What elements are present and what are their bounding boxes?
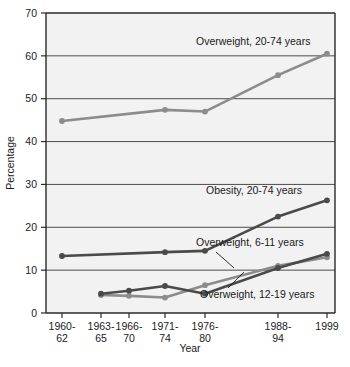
data-point — [162, 249, 168, 255]
data-point — [202, 109, 208, 115]
y-tick-label-20: 20 — [25, 221, 37, 233]
x-tick-label-1966-70: 1966- — [116, 320, 143, 332]
y-tick-marks-group — [41, 13, 46, 313]
data-point — [324, 251, 330, 257]
data-point — [162, 295, 168, 301]
x-tick-label-1971-74: 1971- — [152, 320, 179, 332]
data-point — [126, 293, 132, 299]
data-point — [162, 283, 168, 289]
x-tick-labels-group: 1960-621963-651966-701971-741976-801988-… — [49, 320, 339, 344]
y-tick-label-50: 50 — [25, 92, 37, 104]
y-tick-label-40: 40 — [25, 135, 37, 147]
annotation-obesity-20-74-years: Obesity, 20-74 years — [206, 184, 302, 196]
plot-background — [46, 13, 335, 313]
x-tick-label-1988-94-line2: 94 — [272, 332, 284, 344]
data-point — [59, 253, 65, 259]
y-tick-label-60: 60 — [25, 50, 37, 62]
data-point — [162, 107, 168, 113]
data-point — [275, 265, 281, 271]
y-tick-label-70: 70 — [25, 7, 37, 19]
x-tick-marks-group — [62, 313, 327, 318]
y-tick-labels-group: 010203040506070 — [25, 7, 37, 319]
data-point — [324, 197, 330, 203]
x-tick-label-1966-70-line2: 70 — [123, 332, 135, 344]
y-axis-title: Percentage — [4, 136, 16, 190]
x-axis-title: Year — [179, 342, 201, 354]
chart-container: 010203040506070 1960-621963-651966-70197… — [0, 0, 350, 367]
x-tick-label-1971-74-line2: 74 — [159, 332, 171, 344]
x-tick-label-1999: 1999 — [315, 320, 339, 332]
line-chart: 010203040506070 1960-621963-651966-70197… — [0, 0, 350, 367]
data-point — [275, 214, 281, 220]
annotation-overweight-20-74-years: Overweight, 20-74 years — [196, 35, 310, 47]
x-tick-label-1976-80-line2: 80 — [199, 332, 211, 344]
y-tick-label-0: 0 — [31, 307, 37, 319]
x-tick-label-1960-62: 1960- — [49, 320, 76, 332]
y-tick-label-10: 10 — [25, 264, 37, 276]
annotation-overweight-6-11-years: Overweight, 6-11 years — [196, 236, 304, 248]
annotation-overweight-12-19-years: Overweight, 12-19 years — [200, 288, 314, 300]
y-tick-label-30: 30 — [25, 178, 37, 190]
data-point — [98, 291, 104, 297]
data-point — [202, 248, 208, 254]
x-tick-label-1976-80: 1976- — [192, 320, 219, 332]
data-point — [126, 288, 132, 294]
x-tick-label-1963-65: 1963- — [88, 320, 115, 332]
x-tick-label-1960-62-line2: 62 — [56, 332, 68, 344]
data-point — [324, 51, 330, 57]
data-point — [275, 72, 281, 78]
x-tick-label-1988-94: 1988- — [265, 320, 292, 332]
data-point — [59, 118, 65, 124]
x-tick-label-1963-65-line2: 65 — [95, 332, 107, 344]
